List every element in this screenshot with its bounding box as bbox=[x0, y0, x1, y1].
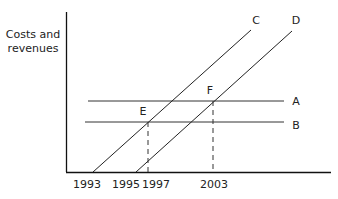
label-a: A bbox=[292, 95, 300, 108]
point-f-label: F bbox=[207, 84, 213, 97]
label-c: C bbox=[252, 14, 260, 27]
y-axis-label-line2: revenues bbox=[8, 42, 59, 55]
x-tick-2003: 2003 bbox=[200, 178, 228, 191]
x-tick-1995: 1995 bbox=[112, 178, 140, 191]
label-d: D bbox=[292, 14, 300, 27]
point-e-label: E bbox=[140, 105, 147, 118]
y-axis-label-line1: Costs and bbox=[6, 28, 60, 41]
x-tick-1997: 1997 bbox=[142, 178, 170, 191]
x-tick-1993: 1993 bbox=[73, 178, 101, 191]
cost-revenue-diagram: Costs and revenues A B C D E F 1993 1995… bbox=[0, 0, 338, 199]
label-b: B bbox=[292, 119, 300, 132]
